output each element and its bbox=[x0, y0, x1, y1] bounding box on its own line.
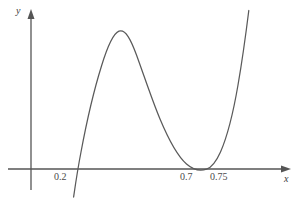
x-tick-label-0-2: 0.2 bbox=[54, 172, 67, 182]
x-tick-label-0-75: 0.75 bbox=[210, 172, 228, 182]
x-tick-label-0-7: 0.7 bbox=[180, 172, 193, 182]
plot-canvas bbox=[0, 0, 297, 201]
function-plot-figure: y x 0.2 0.7 0.75 bbox=[0, 0, 297, 201]
x-axis-arrow-icon bbox=[281, 166, 291, 173]
y-axis-arrow-icon bbox=[28, 9, 35, 19]
x-axis-label: x bbox=[284, 174, 288, 184]
y-axis-label: y bbox=[16, 6, 20, 16]
